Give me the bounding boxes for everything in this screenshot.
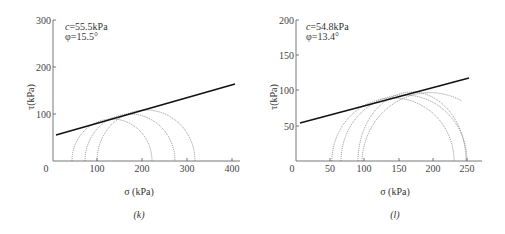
chart-k: 300 200 100 0 100 200 300 400 c=55.5kPa … — [25, 15, 240, 221]
panel-label-l: (l) — [390, 209, 400, 221]
y-tick-k-100: 100 — [36, 109, 51, 120]
x-tick-l-50: 50 — [325, 163, 335, 174]
x-axis-label-k: σ (kPa) — [124, 186, 154, 198]
x-tick-k-300: 300 — [180, 163, 195, 174]
y-tick-l-150: 150 — [279, 50, 294, 61]
x-tick-k-100: 100 — [90, 163, 105, 174]
friction-angle-label-k: φ=15.5° — [65, 31, 98, 42]
y-axis-label-l: τ(kPa) — [268, 84, 280, 110]
x-tick-k-0: 0 — [44, 163, 49, 174]
y-tick-l-50: 50 — [284, 121, 294, 132]
mohr-circle-l-2 — [341, 95, 467, 161]
strength-envelope-l — [300, 78, 469, 123]
x-tick-k-200: 200 — [135, 163, 150, 174]
y-tick-l-100: 100 — [279, 85, 294, 96]
mohr-circle-l-1 — [332, 98, 454, 161]
y-tick-l-200: 200 — [279, 15, 294, 26]
y-tick-k-200: 200 — [36, 62, 51, 73]
strength-envelope-k — [56, 84, 235, 135]
mohr-circle-k-2 — [85, 114, 175, 161]
friction-angle-label-l: φ=13.4° — [306, 31, 339, 42]
y-tick-k-300: 300 — [36, 15, 51, 26]
figure: 300 200 100 0 100 200 300 400 c=55.5kPa … — [0, 0, 505, 234]
x-axis-label-l: σ (kPa) — [380, 186, 410, 198]
x-tick-l-0: 0 — [290, 163, 295, 174]
x-tick-l-250: 250 — [460, 163, 475, 174]
y-axis-label-k: τ(kPa) — [25, 84, 37, 110]
x-tick-l-100: 100 — [357, 163, 372, 174]
mohr-circle-k-3 — [97, 110, 195, 161]
chart-l: 200 150 100 50 0 50 100 150 200 250 c=54… — [268, 15, 482, 221]
mohr-circle-l-3 — [358, 92, 466, 161]
x-tick-k-400: 400 — [225, 163, 240, 174]
panel-label-k: (k) — [133, 209, 145, 221]
mohr-circle-k-1 — [72, 119, 152, 161]
x-tick-l-200: 200 — [426, 163, 441, 174]
x-tick-l-150: 150 — [392, 163, 407, 174]
